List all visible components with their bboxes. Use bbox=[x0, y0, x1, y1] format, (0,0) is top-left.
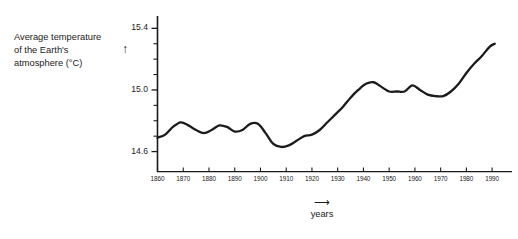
temperature-line-series bbox=[158, 44, 495, 147]
y-axis-tick-label: 15.4 bbox=[122, 23, 148, 32]
y-axis-ticks bbox=[152, 28, 158, 151]
y-axis-tick-label: 14.6 bbox=[122, 147, 148, 156]
plot-area bbox=[0, 0, 518, 239]
x-axis-label-text: years bbox=[282, 209, 362, 220]
x-axis-tick-label: 1990 bbox=[477, 174, 507, 183]
chart-figure: Average temperature of the Earth's atmos… bbox=[0, 0, 518, 239]
x-axis-label: ⟶ years bbox=[282, 196, 362, 220]
x-axis-right-arrow-icon: ⟶ bbox=[282, 196, 362, 209]
y-axis-tick-label: 15.0 bbox=[122, 85, 148, 94]
axis-lines bbox=[157, 16, 512, 172]
